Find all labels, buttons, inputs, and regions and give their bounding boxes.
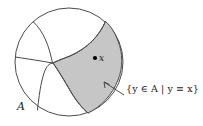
set-a-label: A [17, 101, 25, 112]
point-x-dot [93, 56, 97, 60]
equivalence-class-label: {y ∈ A | y ≡ x} [126, 84, 199, 94]
figure-container: A x {y ∈ A | y ≡ x} [0, 0, 203, 126]
point-x-label: x [99, 54, 104, 63]
partition-diagram-svg [0, 0, 203, 126]
